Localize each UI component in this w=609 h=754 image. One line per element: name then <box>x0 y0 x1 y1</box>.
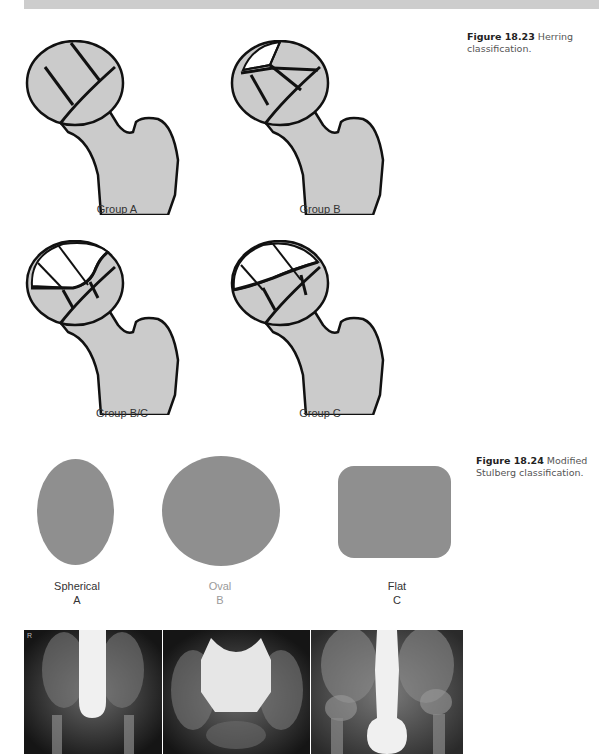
radiograph-spherical: R <box>24 630 162 754</box>
group-b-label: Group B <box>260 203 380 215</box>
group-bc-label: Group B/C <box>62 407 182 419</box>
figure-18-24-caption: Figure 18.24 Modified Stulberg classific… <box>476 455 606 479</box>
page-header-bar <box>24 0 599 9</box>
group-c-label: Group C <box>260 407 380 419</box>
spherical-shape <box>37 459 114 565</box>
shape-letter: C <box>352 593 442 607</box>
radiograph-side-marker: R <box>27 632 32 639</box>
shape-name: Oval <box>175 579 265 593</box>
shape-letter: A <box>32 593 122 607</box>
femur-diagram-group-c <box>223 240 423 415</box>
oval-shape <box>162 456 280 566</box>
flat-label: Flat C <box>352 579 442 607</box>
group-a-label: Group A <box>57 203 177 215</box>
figure-number: Figure 18.24 <box>476 455 544 466</box>
radiograph-oval <box>163 630 310 754</box>
radiograph-flat <box>311 630 463 754</box>
oval-label: Oval B <box>175 579 265 607</box>
shape-name: Spherical <box>32 579 122 593</box>
femur-diagram-group-a <box>18 40 218 215</box>
figure-number: Figure 18.23 <box>467 31 535 42</box>
spherical-label: Spherical A <box>32 579 122 607</box>
shape-letter: B <box>175 593 265 607</box>
shape-name: Flat <box>352 579 442 593</box>
femur-diagram-group-b <box>223 40 423 215</box>
figure-18-23-caption: Figure 18.23 Herring classification. <box>467 31 607 55</box>
flat-shape <box>338 466 451 558</box>
femur-diagram-group-bc <box>18 240 218 415</box>
